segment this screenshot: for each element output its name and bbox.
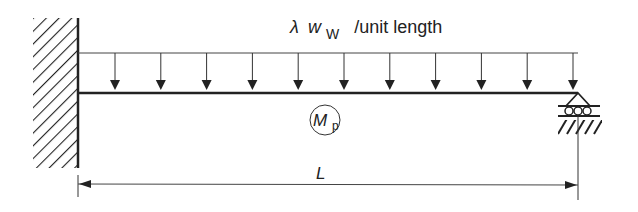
load-arrow — [385, 53, 395, 90]
load-arrow — [293, 53, 303, 90]
wall-hatching — [33, 18, 78, 168]
svg-text:M p: M p — [313, 111, 339, 133]
load-arrow — [156, 53, 166, 90]
load-label: λ w W /unit length — [289, 17, 442, 43]
moment-symbol: M — [313, 111, 328, 130]
load-arrow — [110, 53, 120, 90]
length-label: L — [316, 164, 325, 183]
load-arrow — [431, 53, 441, 90]
load-unit-text: /unit length — [354, 17, 442, 37]
load-variable: w — [308, 17, 322, 37]
load-arrow — [568, 53, 578, 90]
load-subscript: W — [326, 26, 340, 42]
fixed-wall-support — [33, 18, 78, 168]
load-arrow — [247, 53, 257, 90]
roller-support — [558, 93, 604, 134]
plastic-moment-marker: M p — [310, 105, 340, 135]
moment-subscript: p — [332, 119, 339, 133]
load-arrow — [522, 53, 532, 90]
lambda-symbol: λ — [289, 17, 299, 37]
load-arrow — [476, 53, 486, 90]
distributed-load-arrows — [110, 53, 578, 90]
load-arrow — [339, 53, 349, 90]
beam-diagram: λ w W /unit length M p L — [0, 0, 638, 212]
load-arrow — [202, 53, 212, 90]
